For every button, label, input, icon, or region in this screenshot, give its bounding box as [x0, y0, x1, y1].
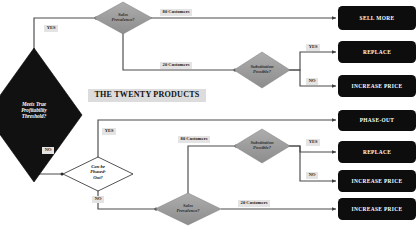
terminal-increase-price-top[interactable] [338, 75, 416, 97]
terminal-sell-more[interactable] [338, 6, 416, 30]
branch-label-phase-out-no: NO [92, 196, 104, 203]
title-banner: THE TWENTY PRODUCTS [88, 89, 206, 102]
terminal-increase-price-bottom[interactable] [338, 198, 416, 220]
terminal-replace-top[interactable] [338, 41, 416, 63]
edge-substitution-bottom-yes [288, 146, 336, 152]
decision-substitution-bottom[interactable] [234, 129, 290, 163]
edge-80-customers-bottom [188, 146, 236, 196]
branch-label-profitability-yes: YES [44, 25, 58, 32]
branch-label-substitution-bottom-yes: YES [306, 139, 320, 146]
decision-phase-out[interactable] [63, 157, 133, 191]
branch-label-substitution-bottom-no: NO [306, 172, 318, 179]
decision-sales-prevalence-top[interactable] [94, 2, 152, 34]
edge-phase-out-no [98, 189, 156, 209]
edge-label-20-customers-bottom: 20 Customers [238, 200, 270, 207]
decision-substitution-top[interactable] [234, 52, 290, 88]
edge-label-20-customers-top: 20 Customers [160, 62, 192, 69]
branch-label-phase-out-yes: YES [102, 128, 116, 135]
terminal-replace-bottom[interactable] [338, 141, 416, 163]
decision-sales-prevalence-bottom[interactable] [155, 193, 221, 225]
branch-label-substitution-top-no: NO [306, 78, 318, 85]
terminal-phase-out[interactable] [338, 110, 416, 131]
terminal-increase-price-mid[interactable] [338, 170, 416, 192]
edge-label-80-customers-top: 80 Customers [160, 9, 192, 16]
edge-substitution-top-yes [288, 52, 336, 70]
branch-label-substitution-top-yes: YES [306, 44, 320, 51]
flowchart-canvas: Meets True Profitability Threshold? Sale… [0, 0, 420, 234]
flowchart-graphics [0, 0, 420, 234]
decision-profitability[interactable] [0, 48, 82, 182]
branch-label-profitability-no: NO [42, 147, 54, 154]
edge-label-80-customers-bottom: 80 Customers [178, 136, 210, 143]
